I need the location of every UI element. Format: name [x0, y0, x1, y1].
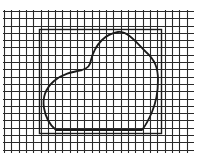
- grid-diagram: [0, 0, 197, 155]
- diagram-canvas: [0, 0, 197, 155]
- grid-lines: [3, 10, 194, 153]
- irregular-shape-outline: [43, 32, 158, 130]
